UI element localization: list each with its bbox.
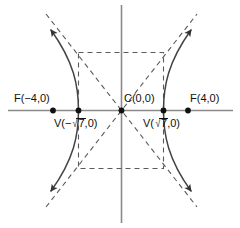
radical-sign-right: √ [156, 118, 161, 129]
radical-right-vertex: √7 [154, 118, 167, 129]
point-left-vertex [76, 108, 82, 114]
label-center: C(0,0) [124, 93, 155, 104]
label-left-vertex-suffix: ,0) [85, 117, 98, 129]
label-right-vertex: V(√7,0) [143, 118, 180, 129]
radical-overbar-right [159, 118, 168, 119]
label-right-vertex-suffix: ,0) [167, 117, 180, 129]
label-right-focus: F(4,0) [190, 93, 219, 104]
left-branch-upper [51, 30, 79, 111]
right-branch-upper [164, 30, 192, 111]
hyperbola-canvas [0, 0, 240, 228]
radical-left-vertex: √7 [71, 118, 84, 129]
hyperbola-figure: F(−4,0) F(4,0) C(0,0) V(−√7,0) V(√7,0) [0, 0, 240, 228]
point-right-focus [185, 108, 191, 114]
label-right-vertex-prefix: V( [143, 117, 154, 129]
label-left-vertex: V(−√7,0) [54, 118, 97, 129]
radical-sign-left: √ [73, 118, 78, 129]
label-left-focus: F(−4,0) [14, 93, 50, 104]
point-left-focus [50, 108, 56, 114]
radical-overbar-left [76, 118, 85, 119]
point-right-vertex [161, 108, 167, 114]
point-center [119, 108, 125, 114]
label-left-vertex-prefix: V(− [54, 117, 71, 129]
